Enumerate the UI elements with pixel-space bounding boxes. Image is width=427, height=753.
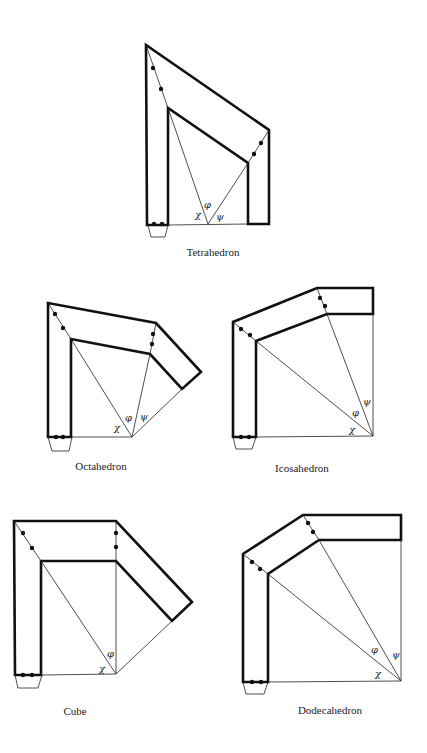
hinge-dot xyxy=(318,296,322,300)
hinge-dot xyxy=(250,680,254,684)
octahedron-caption: Octahedron xyxy=(75,460,127,472)
icosahedron-tab xyxy=(233,437,256,449)
tetrahedron-tab xyxy=(148,225,168,237)
dodecahedron-ray xyxy=(319,540,401,681)
hinge-dot xyxy=(258,567,262,571)
hinge-dot xyxy=(114,545,118,549)
hinge-dot xyxy=(152,222,156,226)
angle-phi: φ xyxy=(371,644,378,655)
dodecahedron-diagram: φ ψ χ Dodecahedron xyxy=(243,515,401,716)
angle-psi: ψ xyxy=(392,649,400,660)
cube-strip xyxy=(14,521,192,675)
hinge-dot xyxy=(54,435,58,439)
octahedron-tab xyxy=(48,437,72,451)
angle-chi: χ xyxy=(113,422,121,433)
hinge-dot xyxy=(21,531,25,535)
cube-caption: Cube xyxy=(63,705,86,717)
icosahedron-fold-line xyxy=(233,322,256,341)
tetrahedron-ray xyxy=(168,108,208,224)
dodecahedron-fold-line xyxy=(243,554,268,574)
hinge-dot xyxy=(323,304,327,308)
cube-base-line xyxy=(41,674,116,675)
hinge-dot xyxy=(21,673,25,677)
hinge-dot xyxy=(151,66,155,70)
polyhedra-figure: χ φ ψ Tetrahedron χ φ ψ Octahedron xyxy=(0,0,427,753)
dodecahedron-base-line xyxy=(268,681,401,682)
hinge-dot xyxy=(151,332,155,336)
angle-phi: φ xyxy=(352,407,359,418)
hinge-dot xyxy=(53,312,57,316)
hinge-dot xyxy=(160,222,164,226)
angle-phi: φ xyxy=(204,199,211,210)
tetrahedron-diagram: χ φ ψ Tetrahedron xyxy=(146,45,269,258)
hinge-dot xyxy=(248,333,252,337)
icosahedron-caption: Icosahedron xyxy=(275,462,329,474)
hinge-dot xyxy=(259,680,263,684)
tetrahedron-ray xyxy=(208,163,248,224)
icosahedron-fold-line xyxy=(317,288,327,314)
cube-diagram: φ χ Cube xyxy=(14,521,192,717)
hinge-dot xyxy=(259,141,263,145)
hinge-dot xyxy=(306,521,310,525)
dodecahedron-ray xyxy=(268,574,401,681)
tetrahedron-fold-line xyxy=(248,130,269,163)
angle-psi: ψ xyxy=(140,411,148,422)
octahedron-diagram: χ φ ψ Octahedron xyxy=(48,303,201,472)
hinge-dot xyxy=(239,435,243,439)
tetrahedron-caption: Tetrahedron xyxy=(187,246,240,258)
hinge-dot xyxy=(247,435,251,439)
dodecahedron-strip xyxy=(243,515,401,682)
dodecahedron-caption: Dodecahedron xyxy=(298,704,363,716)
hinge-dot xyxy=(159,87,163,91)
tetrahedron-base-line xyxy=(168,224,248,225)
angle-phi: φ xyxy=(107,648,114,659)
octahedron-ray xyxy=(71,339,132,437)
angle-psi: ψ xyxy=(216,211,224,222)
hinge-dot xyxy=(114,531,118,535)
angle-chi: χ xyxy=(98,663,106,674)
dodecahedron-tab xyxy=(243,682,268,694)
tetrahedron-fold-line xyxy=(146,45,168,108)
hinge-dot xyxy=(150,342,154,346)
hinge-dot xyxy=(311,530,315,534)
cube-ray xyxy=(41,561,116,674)
hinge-dot xyxy=(61,326,65,330)
angle-chi: χ xyxy=(348,424,356,435)
octahedron-fold-line xyxy=(48,303,71,339)
hinge-dot xyxy=(30,673,34,677)
octahedron-fold-line xyxy=(150,323,156,354)
angle-psi: ψ xyxy=(363,396,371,407)
angle-phi: φ xyxy=(125,412,132,423)
octahedron-ray xyxy=(132,354,150,437)
hinge-dot xyxy=(239,327,243,331)
cube-tab xyxy=(15,675,42,688)
hinge-dot xyxy=(250,560,254,564)
hinge-dot xyxy=(61,435,65,439)
hinge-dot xyxy=(252,152,256,156)
icosahedron-diagram: ψ φ χ Icosahedron xyxy=(233,288,373,474)
dodecahedron-fold-line xyxy=(303,515,319,540)
hinge-dot xyxy=(30,546,34,550)
icosahedron-base-line xyxy=(256,436,373,437)
cube-fold-line xyxy=(14,521,41,561)
angle-chi: χ xyxy=(194,209,202,220)
angle-chi: χ xyxy=(374,668,382,679)
tetrahedron-strip xyxy=(146,45,269,225)
cube-ray xyxy=(116,621,172,674)
